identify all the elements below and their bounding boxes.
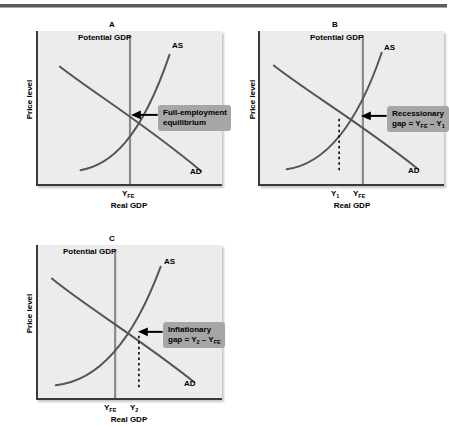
panel-b-tick-yfe: YFE — [353, 189, 365, 198]
panel-c-tick-yfe: YFE — [104, 403, 116, 412]
panel-c-as-curve — [56, 267, 161, 385]
panel-a-tick-yfe: YFE — [122, 189, 134, 198]
panel-a-callout-line2: equilibrium — [163, 118, 206, 127]
panel-b-callout-arrow — [361, 111, 387, 120]
panel-c-x-axis-label: Real GDP — [89, 415, 169, 424]
panel-b-y-axis-label: Price level — [248, 70, 257, 130]
panel-c-potential-gdp-label: Potential GDP — [63, 247, 116, 256]
panel-a-x-axis-label: Real GDP — [89, 201, 169, 210]
panel-c-as-label: AS — [164, 257, 175, 266]
panel-b-callout-line2: gap = YFE – Y1 — [392, 119, 445, 128]
panel-b-tick-yfe-sub: FE — [358, 193, 365, 199]
panel-b-as-curve — [287, 53, 382, 169]
panel-b-plot-area: Potential GDP AS AD Recessionary gap = Y… — [258, 31, 444, 186]
panel-a-as-label: AS — [172, 41, 183, 50]
panel-b-callout: Recessionary gap = YFE – Y1 — [387, 106, 449, 132]
panel-a-letter: A — [92, 20, 132, 29]
panel-c-y-axis-label: Price level — [25, 284, 34, 344]
panel-c-plot-area: Potential GDP AS AD Inflationary gap = Y… — [36, 245, 222, 400]
panel-b-callout-sub1: FE — [421, 123, 428, 129]
panel-b-tick-y1: Y1 — [331, 189, 339, 198]
panel-c-ad-label: AD — [184, 379, 196, 388]
panel-c-callout-line1: Inflationary — [168, 325, 211, 334]
panel-b-x-axis-label: Real GDP — [312, 201, 392, 210]
panel-c-callout: Inflationary gap = Y2 – YFE — [163, 322, 225, 348]
panel-b-callout-mid: – Y — [428, 119, 442, 128]
panel-c-tick-y2-sub: 2 — [135, 407, 138, 413]
panel-c-callout-line2: gap = Y2 – YFE — [168, 335, 221, 344]
panel-c-letter: C — [92, 234, 132, 243]
panel-a-tick-yfe-sub: FE — [127, 193, 134, 199]
panel-c-callout-mid: – Y — [200, 335, 214, 344]
panel-a-callout-arrow — [131, 110, 158, 119]
panel-c-callout-pre: gap = Y — [168, 335, 197, 344]
panel-c-callout-arrow — [138, 327, 163, 336]
panel-b-as-label: AS — [384, 43, 395, 52]
panel-b-callout-pre: gap = Y — [392, 119, 421, 128]
panel-b-ad-label: AD — [408, 166, 420, 175]
panel-a-ad-label: AD — [190, 167, 202, 176]
panel-c-tick-yfe-sub: FE — [109, 407, 116, 413]
panel-a-y-axis-label: Price level — [25, 70, 34, 130]
panel-b-tick-y1-sub: 1 — [336, 193, 339, 199]
panel-c-callout-sub2: FE — [214, 339, 221, 345]
panel-c-callout-sub1: 2 — [197, 339, 200, 345]
panel-b-letter: B — [315, 20, 355, 29]
panel-a-callout-line1: Full-employment — [163, 108, 227, 117]
header-rule-thin — [0, 7, 447, 8]
panel-a-plot-area: Potential GDP AS AD Full-employment equi… — [36, 31, 222, 186]
panel-a-callout: Full-employment equilibrium — [158, 105, 231, 131]
panel-a-potential-gdp-label: Potential GDP — [78, 33, 131, 42]
panel-b-potential-gdp-label: Potential GDP — [310, 33, 363, 42]
panel-b-callout-line1: Recessionary — [392, 109, 444, 118]
panel-c-tick-y2: Y2 — [130, 403, 138, 412]
panel-b-callout-sub2: 1 — [442, 123, 445, 129]
